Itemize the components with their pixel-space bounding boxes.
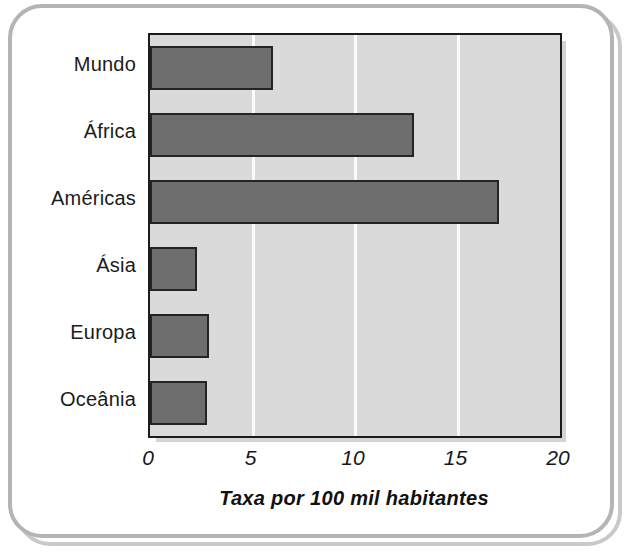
- bar-row[interactable]: [150, 381, 207, 425]
- bar[interactable]: [150, 46, 273, 90]
- bar-row[interactable]: [150, 314, 209, 358]
- chart-page: MundoÁfricaAméricasÁsiaEuropaOceânia 051…: [0, 0, 627, 552]
- bar-row[interactable]: [150, 113, 414, 157]
- x-tick-label-10: 10: [341, 446, 364, 470]
- bar-row[interactable]: [150, 180, 499, 224]
- x-tick-label-15: 15: [444, 446, 467, 470]
- plot-area: [148, 33, 562, 438]
- category-label-3: Ásia: [6, 254, 136, 277]
- bar[interactable]: [150, 314, 209, 358]
- bar-row[interactable]: [150, 46, 273, 90]
- category-label-5: Oceânia: [6, 388, 136, 411]
- gridline: [252, 35, 255, 436]
- bar-row[interactable]: [150, 247, 197, 291]
- x-tick-label-5: 5: [245, 446, 257, 470]
- x-axis-title: Taxa por 100 mil habitantes: [148, 487, 560, 510]
- category-label-2: Américas: [6, 187, 136, 210]
- category-label-1: África: [6, 120, 136, 143]
- bar-chart: MundoÁfricaAméricasÁsiaEuropaOceânia 051…: [0, 0, 627, 552]
- category-label-0: Mundo: [6, 53, 136, 76]
- category-label-4: Europa: [6, 321, 136, 344]
- bar[interactable]: [150, 381, 207, 425]
- x-tick-label-20: 20: [546, 446, 569, 470]
- bar[interactable]: [150, 180, 499, 224]
- bar[interactable]: [150, 247, 197, 291]
- gridline: [457, 35, 460, 436]
- x-tick-label-0: 0: [142, 446, 154, 470]
- gridline: [354, 35, 357, 436]
- bar[interactable]: [150, 113, 414, 157]
